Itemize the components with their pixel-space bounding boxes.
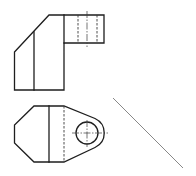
front-view-outline [15, 15, 105, 90]
top-view-outline [15, 106, 105, 162]
front-view [15, 11, 105, 90]
top-view [15, 106, 109, 162]
technical-drawing [0, 0, 196, 176]
miter-line [113, 98, 183, 168]
